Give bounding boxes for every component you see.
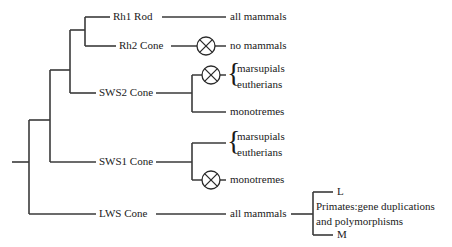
primate-annotation-line2: and polymorphisms <box>316 215 403 227</box>
second-level-node <box>50 70 96 162</box>
sws1-eutherians-label: eutherians <box>237 146 282 158</box>
primate-annotation-group: L M Primates:gene duplications and polym… <box>291 185 435 240</box>
sws1-marsupials-label: marsupials <box>237 130 285 142</box>
tree-canvas: Rh1 Rod all mammals Rh2 Cone no mammals … <box>0 0 452 247</box>
lws-gene-label: LWS Cone <box>99 207 147 219</box>
sws2-gene-label: SWS2 Cone <box>99 86 153 98</box>
sws1-gene-label: SWS1 Cone <box>99 155 153 167</box>
rh2-row: Rh2 Cone no mammals <box>119 37 287 55</box>
sws1-gene-loss-icon <box>202 171 220 189</box>
sws2-gene-loss-icon <box>202 66 220 84</box>
sws2-marsupials-label: marsupials <box>237 62 285 74</box>
rh-clade-node <box>85 17 116 46</box>
rh2-gene-loss-icon <box>197 37 215 55</box>
rh1-tip-label: all mammals <box>230 10 287 22</box>
lws-tip-label: all mammals <box>230 207 287 219</box>
sws1-monotremes-label: monotremes <box>230 173 284 185</box>
lws-row: LWS Cone all mammals <box>99 207 287 219</box>
sws1-row: SWS1 Cone { marsupials eutherians monotr… <box>99 125 285 189</box>
rh2-tip-label: no mammals <box>230 39 287 51</box>
rh-sws2-node <box>70 30 96 93</box>
sws2-monotremes-label: monotremes <box>230 105 284 117</box>
primate-m-label: M <box>337 228 347 240</box>
root-backbone <box>12 120 96 214</box>
rh2-gene-label: Rh2 Cone <box>119 39 163 51</box>
primate-l-label: L <box>337 185 344 197</box>
rh1-gene-label: Rh1 Rod <box>113 10 153 22</box>
sws2-eutherians-label: eutherians <box>237 78 282 90</box>
phylogenetic-tree-diagram: Rh1 Rod all mammals Rh2 Cone no mammals … <box>0 0 452 247</box>
sws2-row: SWS2 Cone { marsupials eutherians monotr… <box>99 57 285 116</box>
primate-annotation-line1: Primates:gene duplications <box>316 200 435 212</box>
rh1-row: Rh1 Rod all mammals <box>113 10 287 22</box>
